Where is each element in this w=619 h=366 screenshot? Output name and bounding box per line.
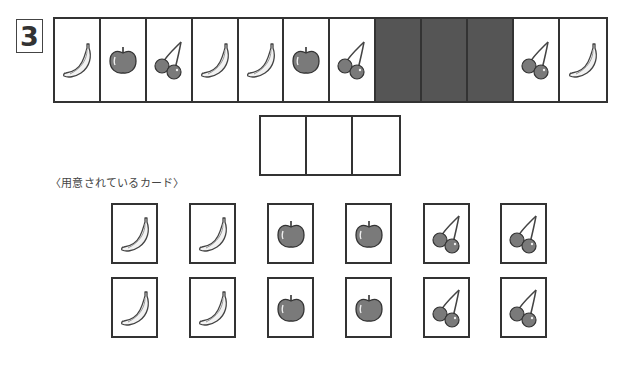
- banana-icon: [60, 40, 94, 80]
- sequence-strip: [53, 17, 608, 103]
- prepared-cards-label: 〈用意されているカード〉: [50, 174, 184, 190]
- prepared-card-banana[interactable]: [189, 277, 236, 338]
- prepared-card-apple[interactable]: [345, 203, 392, 264]
- question-number: 3: [16, 19, 43, 53]
- apple-icon: [354, 292, 384, 324]
- prepared-card-cherry[interactable]: [423, 203, 470, 264]
- banana-icon: [198, 40, 232, 80]
- apple-icon: [276, 218, 306, 250]
- prepared-card-cherry[interactable]: [500, 277, 547, 338]
- prepared-card-banana[interactable]: [111, 277, 158, 338]
- prepared-card-cherry[interactable]: [500, 203, 547, 264]
- prepared-card-apple[interactable]: [267, 277, 314, 338]
- apple-icon: [354, 218, 384, 250]
- hidden-card: [468, 19, 514, 101]
- apple-icon: [108, 44, 138, 76]
- prepared-card-apple[interactable]: [345, 277, 392, 338]
- apple-icon: [276, 292, 306, 324]
- sequence-card-cherry: [330, 19, 376, 101]
- cherry-icon: [507, 287, 541, 329]
- prepared-card-banana[interactable]: [111, 203, 158, 264]
- answer-slot[interactable]: [307, 117, 353, 174]
- cherry-icon: [152, 39, 186, 81]
- sequence-card-banana: [560, 19, 606, 101]
- cherry-icon: [335, 39, 369, 81]
- answer-slot[interactable]: [353, 117, 399, 174]
- prepared-card-apple[interactable]: [267, 203, 314, 264]
- hidden-card: [422, 19, 468, 101]
- cherry-icon: [430, 213, 464, 255]
- sequence-card-apple: [101, 19, 147, 101]
- prepared-card-banana[interactable]: [189, 203, 236, 264]
- sequence-card-banana: [55, 19, 101, 101]
- sequence-card-cherry: [147, 19, 193, 101]
- banana-icon: [244, 40, 278, 80]
- answer-slot[interactable]: [261, 117, 307, 174]
- sequence-card-banana: [193, 19, 239, 101]
- banana-icon: [566, 40, 600, 80]
- prepared-card-cherry[interactable]: [423, 277, 470, 338]
- cherry-icon: [507, 213, 541, 255]
- banana-icon: [196, 214, 230, 254]
- apple-icon: [291, 44, 321, 76]
- banana-icon: [196, 288, 230, 328]
- banana-icon: [118, 214, 152, 254]
- sequence-card-cherry: [514, 19, 560, 101]
- hidden-card: [376, 19, 422, 101]
- sequence-card-banana: [239, 19, 285, 101]
- cherry-icon: [519, 39, 553, 81]
- answer-slots: [259, 115, 401, 176]
- banana-icon: [118, 288, 152, 328]
- sequence-card-apple: [284, 19, 330, 101]
- cherry-icon: [430, 287, 464, 329]
